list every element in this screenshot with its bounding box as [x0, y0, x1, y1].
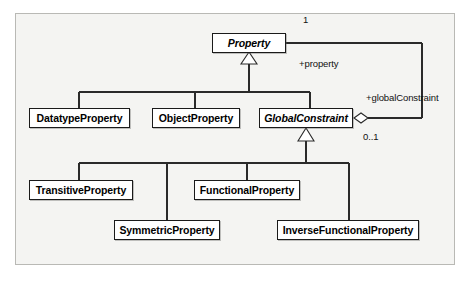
- class-box-datatype-property[interactable]: DatatypeProperty: [29, 108, 130, 128]
- class-box-global-constraint[interactable]: GlobalConstraint: [259, 108, 353, 128]
- class-box-property[interactable]: Property: [212, 33, 286, 53]
- multiplicity-label-one: 1: [303, 14, 308, 25]
- class-name-functional-property: FunctionalProperty: [200, 184, 294, 196]
- class-box-symmetric-property[interactable]: SymmetricProperty: [114, 220, 220, 240]
- class-box-transitive-property[interactable]: TransitiveProperty: [29, 180, 133, 200]
- class-box-inverse-functional-property[interactable]: InverseFunctionalProperty: [277, 220, 419, 240]
- multiplicity-label-zero-one: 0..1: [363, 131, 378, 142]
- class-name-transitive-property: TransitiveProperty: [36, 184, 126, 196]
- role-label-property: +property: [299, 58, 339, 69]
- class-box-object-property[interactable]: ObjectProperty: [152, 108, 240, 128]
- uml-class-diagram: Property DatatypeProperty ObjectProperty…: [0, 0, 471, 283]
- class-name-property: Property: [228, 37, 270, 49]
- class-name-global-constraint: GlobalConstraint: [264, 112, 348, 124]
- role-label-global-constraint: +globalConstraint: [366, 92, 439, 103]
- class-name-datatype-property: DatatypeProperty: [37, 112, 123, 124]
- class-name-symmetric-property: SymmetricProperty: [119, 224, 214, 236]
- class-name-object-property: ObjectProperty: [159, 112, 233, 124]
- class-box-functional-property[interactable]: FunctionalProperty: [194, 180, 300, 200]
- class-name-inverse-functional-property: InverseFunctionalProperty: [283, 224, 414, 236]
